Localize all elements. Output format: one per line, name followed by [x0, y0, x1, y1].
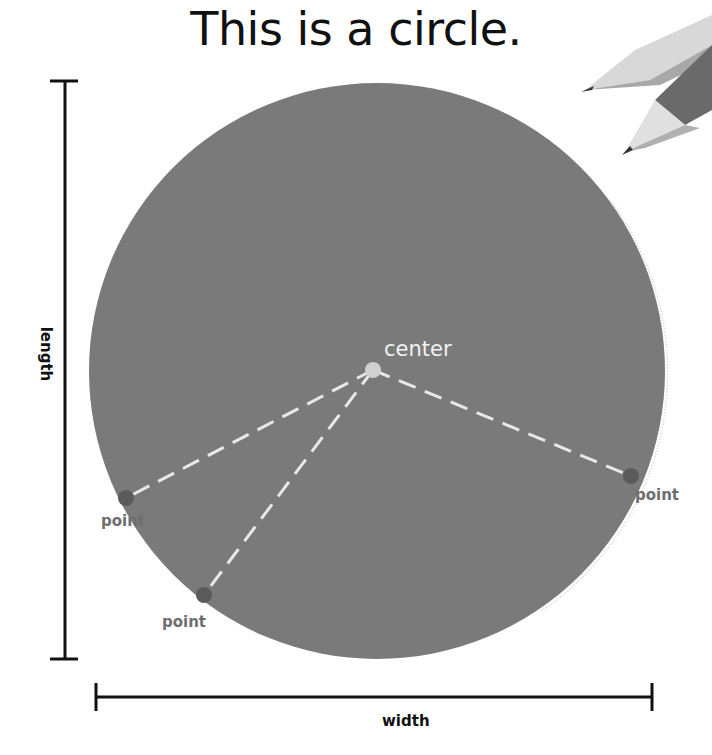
point-label-left: point: [101, 512, 145, 530]
center-dot: [365, 362, 381, 378]
point-dot-bottom: [196, 587, 212, 603]
width-dimension-line: [96, 683, 652, 711]
length-label: length: [37, 324, 55, 384]
point-label-bottom: point: [162, 613, 206, 631]
center-label: center: [384, 337, 452, 361]
point-dot-left: [118, 490, 134, 506]
point-dot-right: [623, 468, 639, 484]
point-label-right: point: [635, 486, 679, 504]
width-label: width: [382, 712, 430, 730]
circle-diagram: [0, 0, 712, 755]
